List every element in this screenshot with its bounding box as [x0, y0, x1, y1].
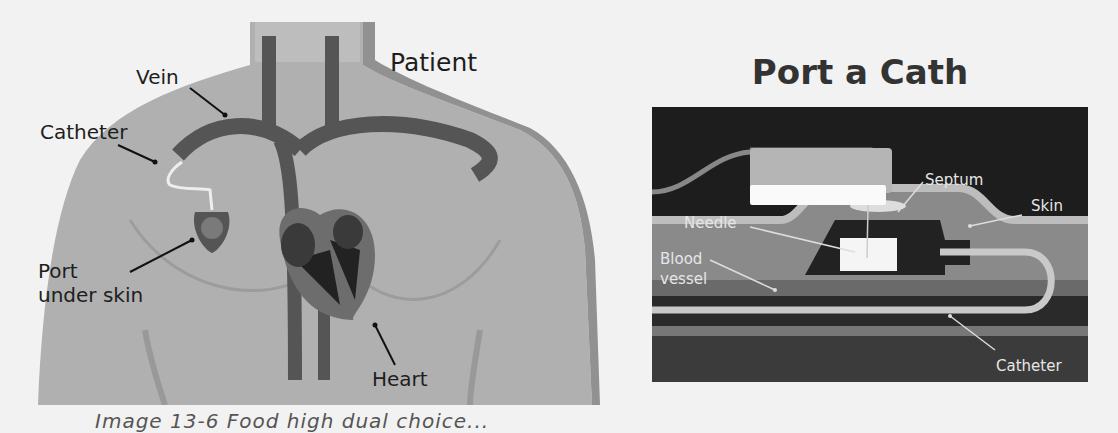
vein-label: Vein	[136, 66, 179, 88]
patient-diagram: Patient Vein Catheter Port under skin He…	[0, 0, 600, 405]
port-a-cath-diagram: Port a Cath Septum Skin Needle Blood	[640, 40, 1100, 390]
heart-label: Heart	[372, 368, 428, 390]
patient-label: Patient	[390, 52, 477, 74]
torso-illustration	[0, 0, 600, 405]
skin-label: Skin	[1031, 198, 1063, 214]
port-label: Port	[38, 260, 78, 282]
catheter-label-right: Catheter	[996, 358, 1062, 374]
vessel-label: vessel	[660, 271, 707, 287]
port-label-line2: under skin	[38, 284, 143, 306]
blood-label: Blood	[660, 251, 702, 267]
catheter-label: Catheter	[40, 121, 127, 143]
septum-label: Septum	[925, 172, 983, 188]
needle-label: Needle	[684, 215, 737, 231]
figure-caption: Image 13-6 Food high dual choice...	[95, 409, 489, 433]
